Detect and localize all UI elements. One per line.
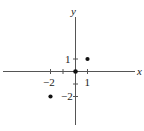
point-1-1 [85, 57, 89, 61]
x-axis-label: x [136, 65, 142, 77]
point-origin [73, 69, 78, 74]
y-axis-label: y [70, 5, 76, 17]
x-tick-label-1: 1 [85, 76, 91, 88]
y-tick-label-1: 1 [65, 53, 71, 65]
x-tick-label-neg2: −2 [43, 76, 55, 88]
coordinate-plane: y x −2 1 1 −2 [0, 0, 144, 131]
point-neg2-neg2 [48, 94, 52, 98]
y-tick-label-neg2: −2 [61, 90, 73, 102]
